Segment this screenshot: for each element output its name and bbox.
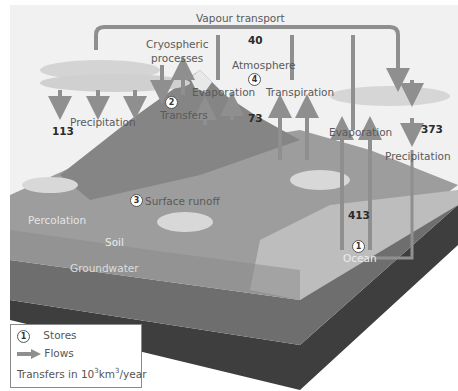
precipitation-ocean-label: Precipitation: [385, 151, 451, 162]
percolation-label: Percolation: [28, 215, 86, 226]
soil-label: Soil: [105, 237, 124, 248]
units-suffix: /year: [120, 368, 147, 380]
store-number-atmosphere: 4: [248, 73, 261, 86]
precipitation-land-value: 113: [52, 126, 74, 137]
transfers-label: Transfers: [160, 110, 208, 121]
legend-flows-label: Flows: [44, 347, 73, 359]
store-number-surface-runoff: 3: [130, 194, 143, 207]
legend: 1 Stores Flows Transfers in 103km3/year: [10, 324, 142, 388]
units-mid: km: [99, 368, 115, 380]
evaporation-ocean-value: 413: [348, 210, 370, 221]
precipitation-ocean-value: 373: [421, 124, 443, 135]
vapour-transport-value: 40: [248, 35, 263, 46]
store-number-transfers: 2: [165, 96, 178, 109]
vapour-transport-label: Vapour transport: [196, 13, 285, 24]
cryospheric-label: Cryospheric: [146, 39, 209, 50]
surface-runoff-label: Surface runoff: [145, 196, 220, 207]
legend-flows: Flows: [17, 347, 74, 359]
atmosphere-label: Atmosphere: [232, 60, 296, 71]
water-cycle-diagram: Vapour transport 40 Cryospheric processe…: [0, 0, 458, 391]
legend-stores: 1 Stores: [17, 329, 77, 343]
evaporation-ocean-label: Evaporation: [329, 127, 392, 138]
legend-stores-label: Stores: [43, 329, 76, 341]
legend-units: Transfers in 103km3/year: [17, 367, 147, 380]
ocean-label: Ocean: [343, 253, 377, 264]
precipitation-land-label: Precipitation: [70, 117, 136, 128]
store-symbol-icon: 1: [17, 330, 30, 343]
units-prefix: Transfers in 10: [17, 368, 94, 380]
evaporation-land-label: Evaporation: [192, 87, 255, 98]
evapotranspiration-land-value: 73: [248, 113, 263, 124]
groundwater-label: Groundwater: [70, 263, 139, 274]
transpiration-label: Transpiration: [266, 87, 334, 98]
processes-label: processes: [151, 53, 203, 64]
flow-arrow-icon: [17, 349, 41, 359]
